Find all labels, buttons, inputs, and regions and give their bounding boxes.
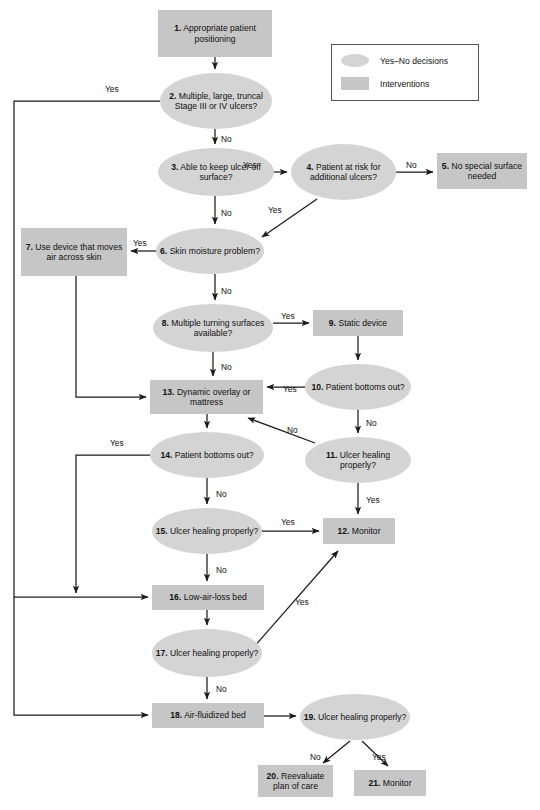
node-1-text: Appropriate patient positioning (183, 23, 256, 43)
node-16: 16. Low-air-loss bed (152, 585, 264, 610)
edge-14-yes-to-16 (76, 455, 150, 593)
node-12-text: Monitor (352, 526, 381, 536)
node-8-text: Multiple turning surfaces available? (171, 318, 264, 338)
edge-bus-to-18 (14, 597, 148, 715)
node-18-text: Air-fluidized bed (184, 710, 246, 720)
node-20-number: 20. (267, 771, 279, 781)
node-16-label: 16. Low-air-loss bed (166, 592, 249, 602)
node-10-number: 10. (311, 382, 323, 392)
node-4: 4. Patient at risk for additional ulcers… (291, 144, 396, 200)
node-21: 21. Monitor (354, 770, 426, 796)
edge-label-e6-yes: Yes (133, 238, 147, 248)
edge-label-e10-yes: Yes (283, 384, 297, 394)
node-18-number: 18. (170, 710, 182, 720)
edge-label-e14-no: No (216, 489, 227, 499)
node-1-label: 1. Appropriate patient positioning (158, 23, 272, 43)
node-5: 5. No special surface needed (437, 153, 527, 189)
node-11-label: 11. Ulcer healing properly? (305, 450, 411, 470)
node-1: 1. Appropriate patient positioning (158, 10, 272, 57)
node-13-text: Dynamic overlay or mattress (177, 387, 251, 407)
node-2: 2. Multiple, large, truncal Stage III or… (160, 73, 272, 129)
node-7-text: Use device that moves air across skin (35, 242, 122, 262)
node-2-number: 2. (169, 91, 176, 101)
node-21-number: 21. (369, 778, 381, 788)
node-14: 14. Patient bottoms out? (150, 432, 264, 478)
node-4-label: 4. Patient at risk for additional ulcers… (291, 162, 396, 182)
node-8-label: 8. Multiple turning surfaces available? (153, 318, 273, 338)
node-9: 9. Static device (313, 310, 403, 336)
edge-label-e10-no: No (366, 418, 377, 428)
edge-label-e4-no: No (406, 160, 417, 170)
node-8: 8. Multiple turning surfaces available? (153, 304, 273, 352)
node-15-label: 15. Ulcer healing properly? (153, 526, 262, 536)
edge-label-e11-yes: Yes (366, 495, 380, 505)
node-7-number: 7. (26, 242, 33, 252)
edge-label-e3-yes: Yes (243, 160, 257, 170)
node-19-text: Ulcer healing properly? (318, 712, 406, 722)
legend-box: Yes–No decisions Interventions (331, 44, 479, 101)
node-5-label: 5. No special surface needed (437, 161, 527, 181)
node-9-label: 9. Static device (326, 318, 390, 328)
node-11-number: 11. (326, 450, 337, 460)
node-4-number: 4. (306, 162, 313, 172)
node-6: 6. Skin moisture problem? (156, 228, 264, 274)
edge-label-e3-no: No (221, 208, 232, 218)
node-10: 10. Patient bottoms out? (305, 364, 411, 410)
node-6-label: 6. Skin moisture problem? (157, 246, 263, 256)
node-21-text: Monitor (383, 778, 412, 788)
node-6-text: Skin moisture problem? (170, 246, 260, 256)
node-3-number: 3. (171, 162, 178, 172)
node-9-text: Static device (338, 318, 387, 328)
edge-11-no-to-13 (248, 418, 315, 443)
edge-label-e17-yes: Yes (295, 597, 309, 607)
edge-label-e2-no: No (221, 134, 232, 144)
node-13-label: 13. Dynamic overlay or mattress (150, 387, 263, 407)
edge-2-yes-bus (14, 101, 160, 597)
node-5-text: No special surface needed (451, 161, 522, 181)
node-19-label: 19. Ulcer healing properly? (301, 712, 410, 722)
node-6-number: 6. (160, 246, 167, 256)
legend-label-interventions: Interventions (380, 79, 429, 89)
node-20-text: Reevaluate plan of care (273, 771, 324, 791)
node-17-text: Ulcer healing properly? (170, 648, 258, 658)
node-17-label: 17. Ulcer healing properly? (153, 648, 262, 658)
flowchart-canvas: Yes–No decisions Interventions 1. Approp… (0, 0, 540, 810)
legend-label-decisions: Yes–No decisions (380, 56, 448, 66)
node-5-number: 5. (442, 161, 449, 171)
node-19: 19. Ulcer healing properly? (300, 694, 410, 740)
edge-label-e8-no: No (221, 362, 232, 372)
edge-label-e15-no: No (216, 565, 227, 575)
node-14-label: 14. Patient bottoms out? (157, 450, 256, 460)
node-15-text: Ulcer healing properly? (170, 526, 258, 536)
ellipse-swatch-icon (341, 54, 369, 67)
node-20-label: 20. Reevaluate plan of care (258, 771, 333, 791)
edge-label-e15-yes: Yes (281, 517, 295, 527)
node-13: 13. Dynamic overlay or mattress (150, 380, 263, 414)
edge-label-e19-no: No (310, 752, 321, 762)
edge-label-e4-yes: Yes (268, 205, 282, 215)
node-20: 20. Reevaluate plan of care (258, 765, 333, 797)
edge-label-e6-no: No (221, 286, 232, 296)
node-12: 12. Monitor (323, 518, 395, 544)
node-13-number: 13. (163, 387, 175, 397)
node-19-number: 19. (304, 712, 316, 722)
node-18-label: 18. Air-fluidized bed (167, 710, 249, 720)
node-21-label: 21. Monitor (366, 778, 415, 788)
node-10-label: 10. Patient bottoms out? (308, 382, 407, 392)
node-15-number: 15. (156, 526, 168, 536)
node-2-label: 2. Multiple, large, truncal Stage III or… (160, 91, 272, 111)
node-4-text: Patient at risk for additional ulcers? (310, 162, 380, 182)
node-11: 11. Ulcer healing properly? (305, 437, 411, 483)
edge-label-e14-yes: Yes (110, 438, 124, 448)
edge-label-e2-yes: Yes (105, 84, 119, 94)
node-12-label: 12. Monitor (335, 526, 384, 536)
edge-label-e11-no: No (287, 425, 298, 435)
node-9-number: 9. (329, 318, 336, 328)
node-18: 18. Air-fluidized bed (152, 703, 264, 728)
node-10-text: Patient bottoms out? (326, 382, 405, 392)
node-7-label: 7. Use device that moves air across skin (21, 242, 127, 262)
node-16-text: Low-air-loss bed (184, 592, 247, 602)
edge-7-to-13 (76, 276, 146, 397)
edge-19-no-to-20 (323, 741, 350, 763)
node-17: 17. Ulcer healing properly? (152, 629, 262, 677)
